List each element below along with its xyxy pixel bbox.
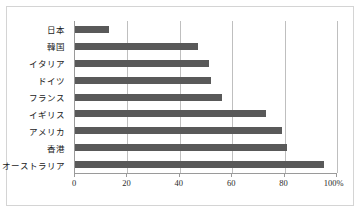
gridline-100 — [337, 21, 338, 173]
category-label-korea: 韓国 — [7, 38, 69, 55]
category-label-japan: 日本 — [7, 21, 69, 38]
tick-mark-100 — [336, 173, 337, 177]
value-axis: 020406080100% — [74, 173, 336, 195]
bar[interactable] — [75, 26, 109, 33]
bar-row — [75, 156, 337, 173]
bar[interactable] — [75, 110, 266, 117]
bar-row — [75, 122, 337, 139]
category-label-france: フランス — [7, 89, 69, 106]
category-axis: 日本 韓国 イタリア ドイツ フランス イギリス アメリカ 香港 オーストラリア — [7, 21, 69, 173]
category-label-australia: オーストラリア — [7, 156, 69, 173]
tick-mark-80 — [284, 173, 285, 177]
bar-row — [75, 55, 337, 72]
bar[interactable] — [75, 43, 198, 50]
chart-frame: 日本 韓国 イタリア ドイツ フランス イギリス アメリカ 香港 オーストラリア… — [6, 6, 354, 206]
tick-mark-20 — [126, 173, 127, 177]
tick-label-20: 20 — [122, 178, 131, 188]
bar-row — [75, 139, 337, 156]
bar[interactable] — [75, 94, 222, 101]
bar-row — [75, 21, 337, 38]
category-label-italy: イタリア — [7, 55, 69, 72]
bar[interactable] — [75, 144, 287, 151]
tick-mark-40 — [179, 173, 180, 177]
tick-label-0: 0 — [72, 178, 76, 188]
tick-label-80: 80 — [279, 178, 288, 188]
tick-mark-0 — [74, 173, 75, 177]
tick-label-100: 100% — [324, 178, 344, 188]
bar-row — [75, 38, 337, 55]
category-label-uk: イギリス — [7, 105, 69, 122]
category-label-germany: ドイツ — [7, 72, 69, 89]
bar-row — [75, 72, 337, 89]
category-label-usa: アメリカ — [7, 122, 69, 139]
plot-area — [74, 21, 337, 174]
category-label-hongkong: 香港 — [7, 139, 69, 156]
bar[interactable] — [75, 60, 209, 67]
bar[interactable] — [75, 77, 211, 84]
tick-mark-60 — [231, 173, 232, 177]
bar[interactable] — [75, 127, 282, 134]
bar[interactable] — [75, 161, 324, 168]
tick-label-60: 60 — [227, 178, 236, 188]
tick-label-40: 40 — [175, 178, 184, 188]
bar-row — [75, 105, 337, 122]
bar-series — [75, 21, 337, 173]
bar-row — [75, 89, 337, 106]
